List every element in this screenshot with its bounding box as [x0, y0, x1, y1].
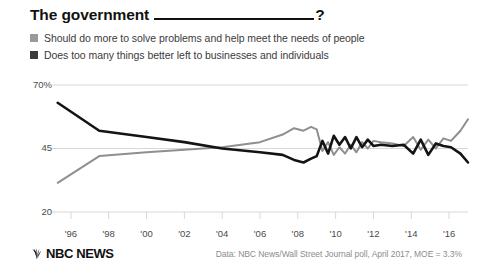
title-blank-line [154, 18, 314, 20]
legend-item[interactable]: Should do more to solve problems and hel… [30, 30, 365, 45]
x-axis-tick-label: '10 [329, 228, 341, 239]
x-axis-tick-label: '00 [140, 228, 152, 239]
nbc-news-logo: NBC NEWS [30, 246, 114, 261]
x-axis-tick-label: '06 [254, 228, 266, 239]
legend-item[interactable]: Does too many things better left to busi… [30, 47, 365, 62]
chart-source-note: Data: NBC News/Wall Street Journal poll,… [216, 249, 462, 259]
legend-item-label: Does too many things better left to busi… [44, 49, 329, 61]
legend-item-label: Should do more to solve problems and hel… [44, 32, 365, 44]
x-axis-tick-label: '04 [216, 228, 228, 239]
chart-card: The government ? Should do more to solve… [0, 0, 480, 275]
brand-text: NBC NEWS [46, 246, 114, 261]
x-axis-tick-label: '02 [178, 228, 190, 239]
x-axis-tick-label: '14 [405, 228, 417, 239]
title-question-mark: ? [315, 6, 324, 24]
x-axis-tick-label: '96 [65, 228, 77, 239]
line-chart-svg [0, 74, 480, 224]
square-swatch-icon [30, 34, 38, 42]
chart-plot-area [0, 74, 480, 224]
square-swatch-icon [30, 51, 38, 59]
page-title: The government ? [30, 6, 325, 24]
series-line-0 [58, 119, 468, 183]
x-axis-tick-label: '98 [103, 228, 115, 239]
chart-legend: Should do more to solve problems and hel… [30, 30, 365, 64]
title-prefix: The government [30, 6, 149, 24]
x-axis-tick-label: '16 [443, 228, 455, 239]
x-axis-tick-label: '08 [292, 228, 304, 239]
nbc-peacock-icon [30, 247, 43, 260]
chart-footer: NBC NEWS Data: NBC News/Wall Street Jour… [0, 246, 480, 270]
x-axis-tick-label: '12 [367, 228, 379, 239]
x-axis-labels: '96'98'00'02'04'06'08'10'12'14'16 [0, 228, 480, 242]
